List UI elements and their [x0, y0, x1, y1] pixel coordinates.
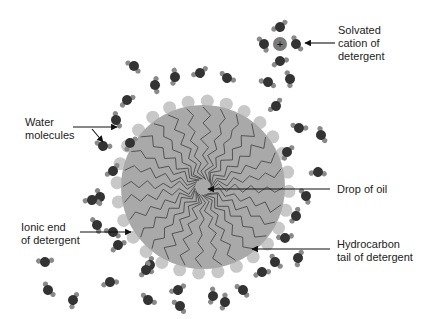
solvated-cation: + [273, 37, 287, 51]
label-water-molecules: Water molecules [25, 116, 75, 142]
arrow-water-2 [92, 129, 103, 142]
cation-plus-sign: + [277, 38, 283, 50]
label-drop-of-oil: Drop of oil [337, 183, 387, 196]
label-hydrocarbon-tail: Hydrocarbon tail of detergent [337, 238, 413, 264]
label-solvated-cation: Solvated cation of detergent [338, 24, 384, 63]
label-ionic-end: Ionic end of detergent [21, 221, 80, 247]
oil-drop [121, 105, 285, 269]
